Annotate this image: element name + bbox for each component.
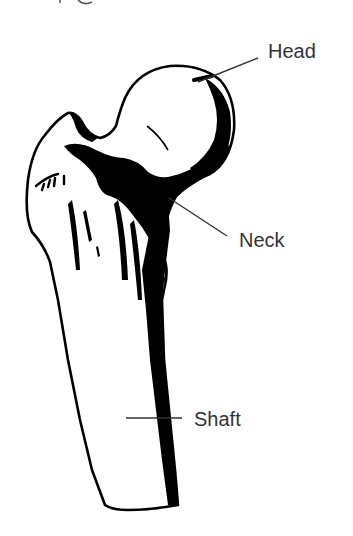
neck-leader-line bbox=[169, 198, 227, 236]
femur-illustration bbox=[0, 0, 353, 536]
label-head: Head bbox=[268, 41, 316, 61]
cropped-caption-descenders bbox=[60, 0, 92, 4]
label-shaft: Shaft bbox=[194, 409, 241, 429]
label-neck: Neck bbox=[239, 230, 285, 250]
head-leader-line bbox=[198, 58, 258, 82]
bone-body bbox=[27, 66, 235, 510]
